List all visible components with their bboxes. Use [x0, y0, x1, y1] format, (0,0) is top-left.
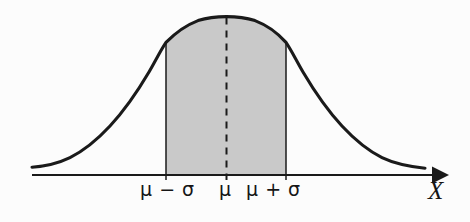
tick-label-mu: μ	[219, 180, 232, 199]
normal-distribution-figure: μ − σ μ μ + σ X	[0, 0, 470, 222]
normal-curve-plot	[0, 0, 470, 222]
tick-label-mu-plus-sigma: μ + σ	[246, 180, 301, 199]
x-axis-label: X	[428, 178, 443, 203]
tick-label-mu-minus-sigma: μ − σ	[140, 180, 195, 199]
